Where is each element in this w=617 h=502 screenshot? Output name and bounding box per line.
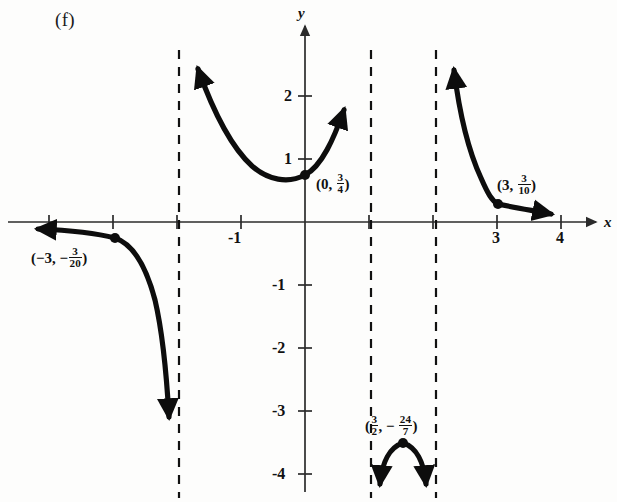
annotation-point-bottom-arc-suffix: ) <box>412 418 417 434</box>
x-tick-label-3: 3 <box>492 229 500 247</box>
dot-point-bottom-arc <box>398 438 408 448</box>
fraction-denominator: 4 <box>337 184 345 195</box>
fraction-denominator: 20 <box>69 258 82 269</box>
curve-branches <box>38 69 551 484</box>
annotation-point-bottom-arc: (32, − 247) <box>365 414 417 438</box>
fraction-denominator: 10 <box>518 185 531 196</box>
branch-middle-u-curve <box>198 69 344 180</box>
x-tick-label--1: -1 <box>228 229 241 247</box>
fraction-denominator: 7 <box>399 426 412 437</box>
graph-canvas <box>0 0 617 502</box>
dot-point-left <box>110 233 120 243</box>
x-axis-label: x <box>604 214 612 231</box>
fraction-24-7: 247 <box>399 414 412 438</box>
fraction-3-2: 32 <box>371 414 379 438</box>
fraction-3-4: 34 <box>337 172 345 196</box>
annotation-point-right-suffix: ) <box>531 177 536 193</box>
annotation-point-bottom-arc-mid: , − <box>379 418 399 434</box>
x-tick-label-4: 4 <box>556 229 564 247</box>
y-tick-label--3: -3 <box>272 402 285 420</box>
y-axis-label: y <box>298 5 305 22</box>
annotation-point-middle-u-prefix: (0, <box>316 176 336 192</box>
y-tick-label--1: -1 <box>272 276 285 294</box>
graph-figure: (f) x y -1 3 4 2 1 -1 -2 -3 -4 (−3, −320… <box>0 0 617 502</box>
annotation-point-middle-u-suffix: ) <box>345 176 350 192</box>
y-tick-label--2: -2 <box>272 339 285 357</box>
y-tick-label-2: 2 <box>284 87 292 105</box>
y-tick-label-1: 1 <box>284 150 292 168</box>
annotation-point-right: (3, 310) <box>497 173 536 197</box>
annotation-point-bottom-arc-prefix: ( <box>365 418 370 434</box>
annotation-point-right-prefix: (3, <box>497 177 517 193</box>
annotation-point-left-suffix: ) <box>82 250 87 266</box>
dot-point-right <box>493 199 503 209</box>
fraction-denominator: 2 <box>371 426 379 437</box>
annotation-point-left-prefix: (−3, − <box>31 250 68 266</box>
fraction-3-20: 320 <box>69 246 82 270</box>
annotation-point-middle-u: (0, 34) <box>316 172 350 196</box>
dot-point-middle-u <box>300 170 310 180</box>
annotation-point-left: (−3, −320) <box>31 246 87 270</box>
y-tick-label--4: -4 <box>272 465 285 483</box>
fraction-3-10: 310 <box>518 173 531 197</box>
branch-bottom-arc-curve <box>380 443 426 484</box>
part-label: (f) <box>55 9 75 31</box>
